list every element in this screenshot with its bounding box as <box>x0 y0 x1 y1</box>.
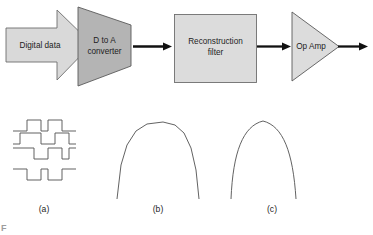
waveform-a <box>13 120 76 180</box>
arrow-head-icon <box>163 43 172 51</box>
scan-artifact: F <box>1 224 6 233</box>
connector-opamp-to-output <box>338 43 368 51</box>
dac-label-line1: D to A <box>93 36 116 45</box>
waveform-a-caption: (a) <box>39 204 50 214</box>
waveform-b <box>117 122 199 199</box>
dac-label-line2: converter <box>87 47 121 56</box>
waveform-b-caption: (b) <box>153 204 164 214</box>
diagram-svg: Digital data D to A converter Reconstruc… <box>0 0 373 235</box>
waveform-c <box>231 121 296 199</box>
reconstruction-filter-block[interactable]: Reconstruction filter <box>175 15 257 83</box>
connector-filter-to-opamp <box>257 43 291 51</box>
waveform-a-trace-1 <box>13 120 76 131</box>
waveform-c-caption: (c) <box>267 204 277 214</box>
waveform-a-trace-4 <box>13 169 76 180</box>
reconstruction-filter-label-line1: Reconstruction <box>188 37 243 46</box>
op-amp-label: Op Amp <box>296 42 326 51</box>
digital-data-label: Digital data <box>20 41 61 50</box>
arrow-head-icon <box>359 43 368 51</box>
arrow-head-icon <box>282 43 291 51</box>
reconstruction-filter-label-line2: filter <box>208 48 224 57</box>
waveform-a-trace-3 <box>13 148 76 159</box>
waveform-c-trace <box>231 121 296 199</box>
dac-block[interactable]: D to A converter <box>78 7 131 86</box>
op-amp-block[interactable]: Op Amp <box>292 12 339 81</box>
connector-dac-to-filter <box>133 43 172 51</box>
figure-canvas: Digital data D to A converter Reconstruc… <box>0 0 373 235</box>
waveform-b-trace <box>117 122 199 199</box>
waveform-a-trace-2 <box>13 133 76 144</box>
